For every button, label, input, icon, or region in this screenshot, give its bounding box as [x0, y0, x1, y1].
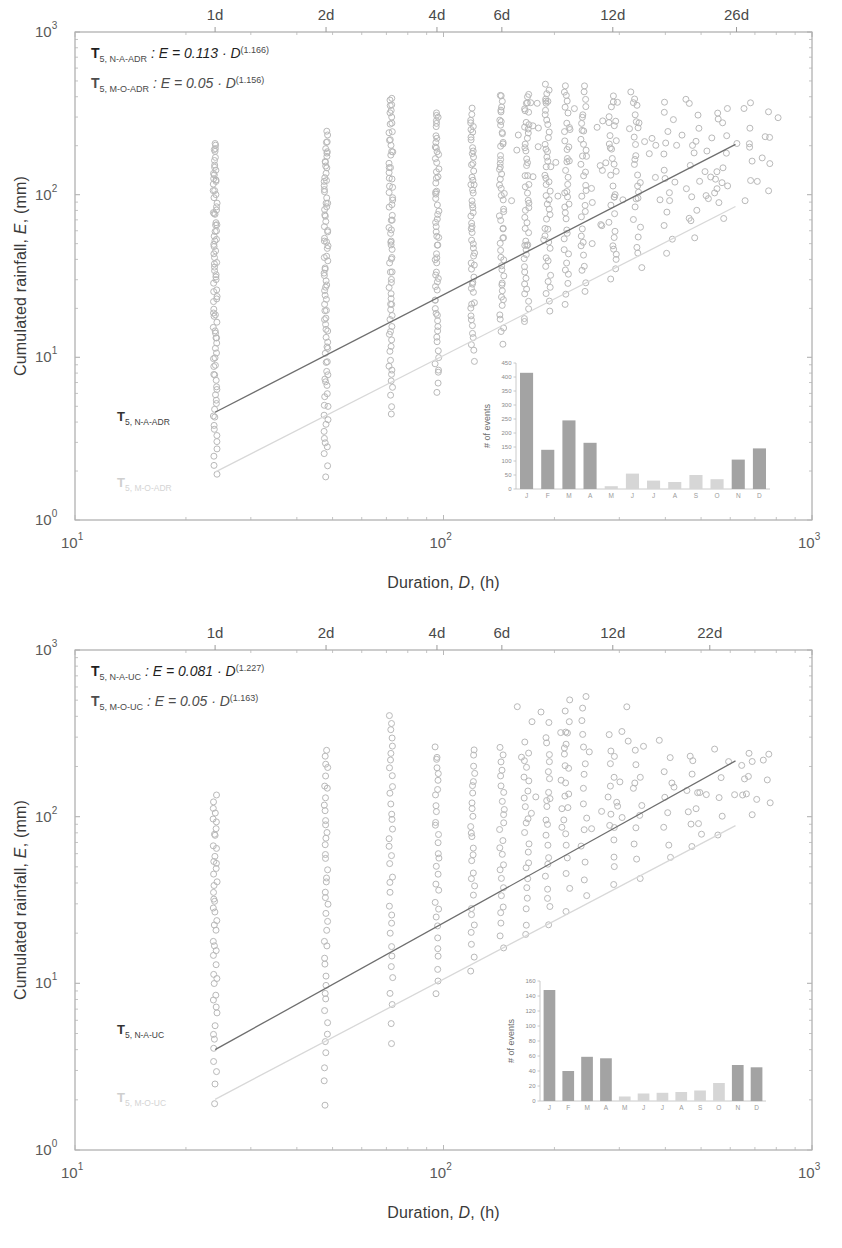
inset-month-label: S [694, 492, 699, 499]
data-point [389, 337, 395, 343]
top-axis-tick-label: 4d [429, 6, 446, 23]
data-point [611, 854, 617, 860]
data-point [606, 732, 612, 738]
y-axis-title: Cumulated rainfall, E, (mm) [12, 800, 29, 1000]
data-point [434, 765, 440, 771]
data-point [633, 825, 639, 831]
inset-bar [694, 1091, 706, 1102]
data-point [468, 830, 474, 836]
data-point [526, 230, 532, 236]
data-point [603, 160, 609, 166]
inset-month-label: J [525, 492, 528, 499]
data-point [469, 162, 475, 168]
data-point [563, 871, 569, 877]
data-point [501, 273, 507, 279]
top-axis-tick-label: 2d [318, 624, 335, 641]
threshold-lines [215, 761, 735, 1099]
inset-month-label: F [546, 492, 550, 499]
data-point [515, 132, 521, 138]
data-point [561, 236, 567, 242]
data-point [324, 382, 330, 388]
data-point [497, 933, 503, 939]
data-point [561, 745, 567, 751]
inset-month-label: O [715, 492, 720, 499]
data-point [666, 842, 672, 848]
inset-month-label: J [631, 492, 634, 499]
data-point [470, 241, 476, 247]
data-point [214, 976, 220, 982]
data-point [389, 944, 395, 950]
data-point [589, 241, 595, 247]
data-point [760, 757, 766, 763]
data-point [322, 753, 328, 759]
data-point [471, 358, 477, 364]
data-point [608, 276, 614, 282]
data-point [498, 893, 504, 899]
data-point [386, 836, 392, 842]
data-point [436, 887, 442, 893]
data-point [566, 201, 572, 207]
top-axis-tick-label: 4d [429, 624, 446, 641]
data-point [562, 138, 568, 144]
data-point [389, 773, 395, 779]
data-point [325, 867, 331, 873]
data-point [611, 882, 617, 888]
threshold-line-lower [215, 826, 735, 1100]
data-point [390, 975, 396, 981]
threshold-lines [215, 144, 735, 472]
data-point [634, 856, 640, 862]
data-point [749, 812, 755, 818]
data-point [471, 154, 477, 160]
plot-frame [75, 32, 812, 520]
data-point [635, 172, 641, 178]
data-point [498, 153, 504, 159]
top-axis-tick-label: 6d [494, 6, 511, 23]
inset-bar [689, 475, 702, 489]
data-point [608, 748, 614, 754]
data-point [545, 895, 551, 901]
y-tick-label: 101 [35, 971, 58, 991]
data-point [501, 862, 507, 868]
data-point [435, 851, 441, 857]
data-point [434, 287, 440, 293]
data-point [212, 1101, 218, 1107]
data-point [746, 141, 752, 147]
data-point [581, 827, 587, 833]
data-point [522, 830, 528, 836]
data-point [524, 764, 530, 770]
inset-y-tick-label: 250 [501, 416, 512, 422]
data-point [538, 709, 544, 715]
data-point [212, 362, 218, 368]
data-point [543, 291, 549, 297]
inset-y-tick-label: 160 [525, 978, 536, 984]
data-point [212, 1081, 218, 1087]
data-point [690, 142, 696, 148]
inset-month-label: A [604, 1104, 609, 1111]
data-point [719, 813, 725, 819]
data-point [619, 815, 625, 821]
data-point [211, 462, 217, 468]
data-point [432, 899, 438, 905]
data-point [664, 250, 670, 256]
data-point [565, 805, 571, 811]
data-point [563, 741, 569, 747]
inset-bar [713, 1083, 725, 1101]
data-point [546, 129, 552, 135]
inset-bar [732, 1065, 744, 1101]
data-point [641, 743, 647, 749]
inset-y-ticks: 050100150200250300350400450 [501, 360, 516, 492]
data-point [499, 302, 505, 308]
top-axis-tick-label: 26d [724, 6, 749, 23]
inset-month-label: N [735, 1104, 740, 1111]
data-point [525, 190, 531, 196]
inset-y-axis-title: # of events [482, 403, 492, 448]
data-point [559, 806, 565, 812]
data-point [715, 116, 721, 122]
equation-annotations: T5, N-A-UC : E = 0.081 · D(1.227)T5, M-O… [91, 663, 264, 712]
data-point [589, 185, 595, 191]
inset-y-tick-label: 300 [501, 402, 512, 408]
data-point [606, 120, 612, 126]
inset-bar [562, 1071, 574, 1101]
inset-bar [657, 1093, 669, 1101]
data-point [500, 752, 506, 758]
